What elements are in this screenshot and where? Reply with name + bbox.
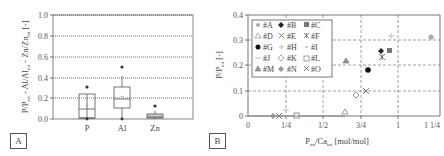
- panel-b-x-tick-labels: 0 1/4 1/2 3/4 1 1 1/4: [246, 121, 440, 130]
- svg-text:#A: #A: [263, 21, 273, 30]
- svg-text:0: 0: [246, 121, 250, 130]
- svg-text:1.0: 1.0: [38, 11, 48, 20]
- svg-text:#H: #H: [287, 43, 297, 52]
- point-b: [378, 48, 384, 54]
- svg-text:Zn: Zn: [150, 123, 160, 133]
- svg-text:#J: #J: [263, 54, 270, 63]
- panel-b-y-tick-labels: 0.4 0.3 0.2 0.1 0: [233, 11, 243, 121]
- box-zn: [147, 104, 163, 119]
- svg-text:#L: #L: [311, 54, 320, 63]
- point-g: [365, 67, 371, 73]
- svg-text:+: +: [85, 103, 89, 109]
- svg-text:0.8: 0.8: [38, 32, 48, 41]
- svg-text:#M: #M: [263, 65, 274, 74]
- svg-text:0.1: 0.1: [233, 87, 243, 96]
- svg-text:#I: #I: [311, 43, 318, 52]
- svg-text:0.3: 0.3: [233, 36, 243, 45]
- panel-a-y-axis-label: P/Ptot - Al/Altot - Zn/Zntot [-]: [20, 21, 31, 114]
- panel-a-y-tick-labels: 1.0 0.8 0.6 0.4 0.2 0.0: [38, 11, 48, 124]
- legend: #A #B #C #D #E #F #G #H #I #J #K #L: [252, 20, 332, 77]
- point-c: [387, 48, 392, 53]
- svg-text:Al: Al: [118, 123, 127, 133]
- box-al: +: [114, 65, 130, 120]
- svg-text:1/4: 1/4: [281, 121, 291, 130]
- point-k: [353, 92, 359, 98]
- svg-text:1/2: 1/2: [318, 121, 328, 130]
- svg-text:0.4: 0.4: [233, 11, 243, 20]
- point-h: [388, 33, 394, 39]
- svg-text:P: P: [85, 123, 90, 133]
- panel-b-x-axis-label: Ptot/Catot [mol/mol]: [305, 136, 369, 147]
- point-f: [379, 54, 385, 60]
- panel-a-label: A: [10, 133, 27, 149]
- panel-b-y-axis-label: P/Ptot [-]: [214, 51, 225, 79]
- point-a: [428, 34, 433, 39]
- svg-text:#C: #C: [311, 21, 320, 30]
- point-d: [342, 109, 348, 114]
- svg-text:#O: #O: [311, 65, 321, 74]
- svg-text:#E: #E: [287, 32, 296, 41]
- svg-text:0.0: 0.0: [38, 115, 48, 124]
- point-m: [343, 58, 349, 63]
- svg-text:#K: #K: [287, 54, 297, 63]
- svg-text:0.6: 0.6: [38, 53, 48, 62]
- svg-text:1 1/4: 1 1/4: [424, 121, 440, 130]
- svg-text:#B: #B: [287, 21, 296, 30]
- svg-text:#D: #D: [263, 32, 273, 41]
- svg-text:#F: #F: [311, 32, 320, 41]
- svg-text:1: 1: [396, 121, 400, 130]
- svg-text:0: 0: [239, 112, 243, 121]
- svg-text:3/4: 3/4: [356, 121, 366, 130]
- svg-text:#G: #G: [263, 43, 273, 52]
- svg-text:0.2: 0.2: [38, 94, 48, 103]
- panel-b-chart: 0.4 0.3 0.2 0.1 0 0 1/4 1/2 3/4 1 1 1/4 …: [214, 11, 440, 147]
- panel-a-x-tick-labels: P Al Zn: [85, 123, 161, 133]
- panel-a-chart: 1.0 0.8 0.6 0.4 0.2 0.0 P/Ptot - Al/Alto…: [20, 11, 193, 133]
- svg-text:#N: #N: [287, 65, 297, 74]
- svg-text:0.2: 0.2: [233, 61, 243, 70]
- svg-text:0.4: 0.4: [38, 74, 48, 83]
- panel-b-label: B: [209, 133, 226, 149]
- box-p: +: [79, 85, 95, 120]
